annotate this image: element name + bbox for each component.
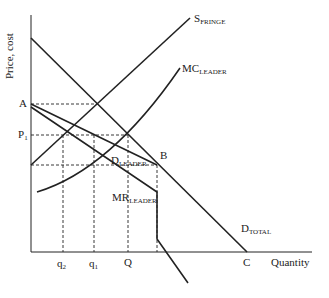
mc-leader-curve xyxy=(37,68,180,192)
mr-leader-line xyxy=(31,107,188,283)
quantity-label-q2: q2 xyxy=(57,258,66,271)
point-label-B: B xyxy=(160,150,167,161)
quantity-label-C: C xyxy=(243,257,250,268)
x-axis-label: Quantity xyxy=(271,257,310,268)
price-label-A: A xyxy=(19,98,27,109)
curve-label-mr-leader: MRLEADER xyxy=(112,192,157,205)
curve-label-d-leader: DLEADER xyxy=(111,155,147,168)
curve-label-mc-leader: MCLEADER xyxy=(182,63,227,76)
quantity-label-Q: Q xyxy=(124,257,132,268)
curve-label-d-total: DTOTAL xyxy=(241,223,271,236)
y-axis-label: Price, cost xyxy=(3,33,15,79)
curve-label-s-fringe: SFRINGE xyxy=(194,13,225,26)
price-label-P1: P1 xyxy=(18,129,28,142)
quantity-label-q1: q1 xyxy=(89,258,98,271)
